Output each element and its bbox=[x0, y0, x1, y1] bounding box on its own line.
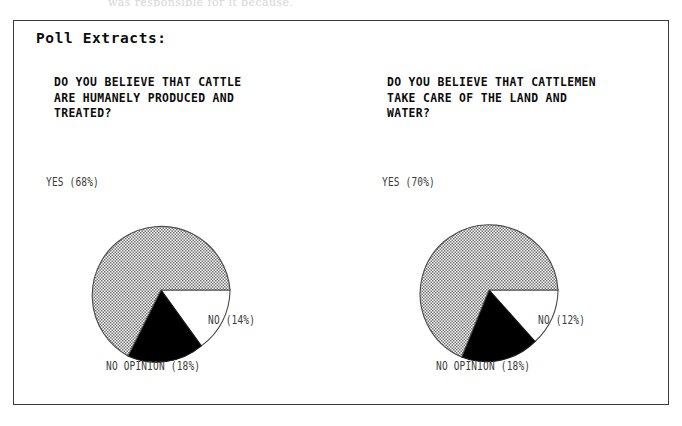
poll-extracts-frame: Poll Extracts: DO YOU BELIEVE THAT CATTL… bbox=[13, 20, 669, 405]
clipped-header-text: was responsible for it because. bbox=[108, 0, 408, 7]
pie-label-no-right: NO (12%) bbox=[538, 313, 585, 327]
pie-chart-cattlemen-land-water: YES (70%) NO (12%) NO OPINION (18%) bbox=[360, 181, 660, 396]
pie-label-no-left: NO (14%) bbox=[208, 313, 255, 327]
pie-label-no-opinion-left: NO OPINION (18%) bbox=[106, 359, 200, 373]
pie-chart-cattle-humanely-produced: YES (68%) NO (14%) NO OPINION (18%) bbox=[32, 181, 332, 396]
pie-label-no-opinion-right: NO OPINION (18%) bbox=[436, 359, 530, 373]
question-text-right: DO YOU BELIEVE THAT CATTLEMEN TAKE CARE … bbox=[387, 75, 667, 122]
poll-panel-cattle-humanely-produced: DO YOU BELIEVE THAT CATTLE ARE HUMANELY … bbox=[14, 21, 344, 404]
pie-label-yes-right: YES (70%) bbox=[382, 175, 435, 189]
pie-label-yes-left: YES (68%) bbox=[46, 175, 99, 189]
question-text-left: DO YOU BELIEVE THAT CATTLE ARE HUMANELY … bbox=[54, 75, 329, 122]
poll-panel-cattlemen-land-water: DO YOU BELIEVE THAT CATTLEMEN TAKE CARE … bbox=[344, 21, 670, 404]
